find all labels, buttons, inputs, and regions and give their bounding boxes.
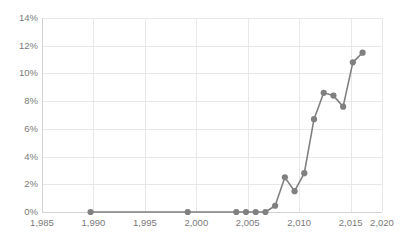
data-series-layer [0, 0, 402, 244]
series-line [91, 53, 363, 212]
data-point [301, 170, 307, 176]
x-tick-label: 2,020 [360, 217, 402, 228]
x-tick-label: 1,985 [20, 217, 64, 228]
data-point [243, 209, 249, 215]
series-markers [87, 50, 365, 216]
data-point [359, 50, 365, 56]
x-tick-label: 1,990 [71, 217, 115, 228]
x-tick-label: 2,000 [174, 217, 218, 228]
data-point [291, 188, 297, 194]
data-point [185, 209, 191, 215]
line-chart: 14% 12% 10% 8% 6% 4% 2% 0% 1,985 1,990 1… [0, 0, 402, 244]
data-point [233, 209, 239, 215]
data-point [311, 116, 317, 122]
x-tick-label: 2,010 [277, 217, 321, 228]
data-point [321, 90, 327, 96]
x-tick-label: 1,995 [123, 217, 167, 228]
data-point [340, 104, 346, 110]
data-point [253, 209, 259, 215]
data-point [350, 59, 356, 65]
data-point [272, 203, 278, 209]
data-point [330, 93, 336, 99]
data-point [87, 209, 93, 215]
x-tick-label: 2,005 [226, 217, 270, 228]
data-point [262, 209, 268, 215]
data-point [282, 174, 288, 180]
